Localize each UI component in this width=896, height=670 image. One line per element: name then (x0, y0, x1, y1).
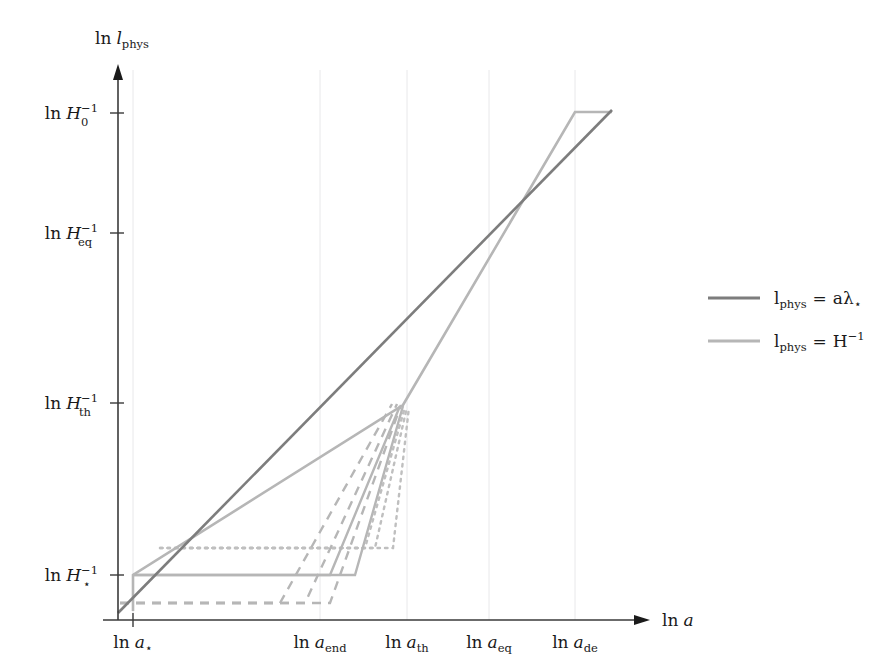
x-tick-label-aend: lnaend (293, 632, 347, 655)
y-tick-label-Heq: lnH−1eq (45, 221, 98, 249)
y-tick-label-Hstar: lnH−1⋆ (45, 563, 98, 591)
legend-label-lphys-hubble: lphys=H−1 (774, 329, 865, 354)
y-axis-title: lnlphys (95, 28, 149, 51)
curve-hubble-radius (133, 112, 612, 611)
x-axis-title: lna (662, 610, 694, 630)
plot-svg: lnlphys lnH−10 lnH−1eq lnH−1th lnH−1⋆ ln… (0, 0, 896, 670)
x-tick-label-aeq: lnaeq (466, 632, 512, 655)
x-tick-label-ade: lnade (552, 632, 598, 655)
y-tick-label-H0: lnH−10 (45, 101, 98, 129)
x-tick-label-astar: lna⋆ (113, 632, 153, 655)
x-tick-label-ath: lnath (385, 632, 429, 655)
legend: lphys=aλ⋆ lphys=H−1 (708, 288, 865, 354)
y-tick-label-Hth: lnH−1th (45, 391, 98, 419)
y-axis-arrow-icon (113, 64, 123, 80)
x-axis-arrow-icon (634, 615, 650, 625)
legend-label-lphys-alambda: lphys=aλ⋆ (774, 288, 862, 311)
figure-container: lnlphys lnH−10 lnH−1eq lnH−1th lnH−1⋆ ln… (0, 0, 896, 670)
